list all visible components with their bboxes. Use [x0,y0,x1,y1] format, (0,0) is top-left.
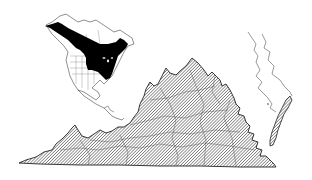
virginia-range-area [19,58,276,167]
eastern-shore-range-area [270,96,292,146]
virginia-map [19,58,276,167]
chesapeake-shoreline-outline [248,32,276,112]
mexico-central-america-outline [78,90,124,120]
island-marker [267,103,269,105]
yucatan-outline [104,106,114,112]
north-america-inset [45,14,134,120]
delmarva-shoreline-outline [262,34,292,96]
range-map-figure [0,0,312,180]
